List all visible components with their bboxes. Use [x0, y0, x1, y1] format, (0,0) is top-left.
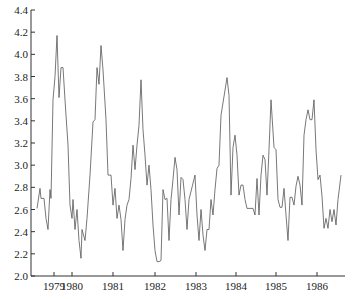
x-tick-label: 1984	[225, 280, 248, 292]
y-tick-label: 3.6	[14, 93, 28, 105]
y-tick-label: 4.2	[14, 26, 28, 38]
line-chart: 2.02.22.42.62.83.03.23.43.63.84.04.24.4 …	[0, 0, 357, 299]
x-tick-label: 1983	[185, 280, 208, 292]
y-tick-label: 2.4	[14, 226, 28, 238]
y-tick-label: 2.2	[14, 248, 28, 260]
x-tick-label: 1982	[144, 280, 166, 292]
x-axis: 19791980198119821983198419851986	[31, 272, 345, 292]
x-tick-label: 1980	[61, 280, 84, 292]
x-tick-label: 1986	[306, 280, 329, 292]
x-tick-label: 1985	[265, 280, 288, 292]
y-tick-label: 4.0	[14, 48, 28, 60]
y-tick-label: 3.0	[14, 159, 28, 171]
data-series-line	[37, 36, 341, 262]
y-tick-label: 2.8	[14, 181, 28, 193]
y-axis: 2.02.22.42.62.83.03.23.43.63.84.04.24.4	[14, 4, 35, 282]
y-tick-label: 2.6	[14, 204, 28, 216]
y-tick-label: 3.2	[14, 137, 28, 149]
y-tick-label: 3.8	[14, 71, 28, 83]
x-tick-label: 1981	[102, 280, 124, 292]
y-tick-label: 4.4	[14, 4, 28, 16]
y-tick-label: 2.0	[14, 270, 28, 282]
y-tick-label: 3.4	[14, 115, 28, 127]
